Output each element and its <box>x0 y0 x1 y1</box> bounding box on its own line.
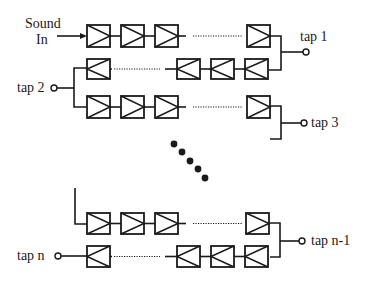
delay-stage-box <box>211 246 234 267</box>
delay-stage-box <box>121 213 144 234</box>
delay-row-row5 <box>87 246 268 267</box>
tap3-bracket-wires <box>270 106 301 139</box>
in-label: In <box>36 33 48 47</box>
delay-row-row2 <box>87 59 268 79</box>
delay-stage-box <box>121 96 144 118</box>
row4-entry-wire <box>75 188 87 224</box>
tap1-merge-wires <box>269 36 303 70</box>
delay-stage-box <box>247 25 270 47</box>
tap1-label: tap 1 <box>300 30 328 44</box>
delay-stage-box <box>245 59 268 79</box>
delay-row-row1 <box>87 25 270 47</box>
tap1-terminal-icon <box>303 49 309 55</box>
delay-stage-box <box>246 213 269 234</box>
delay-row-row3 <box>87 96 270 118</box>
delay-stage-box <box>155 96 178 118</box>
ellipsis-dot-icon <box>202 175 209 182</box>
tap2-label: tap 2 <box>17 81 45 95</box>
ellipsis-dot-icon <box>171 141 178 148</box>
delay-stage-box <box>87 213 110 234</box>
ellipsis-dot-icon <box>179 149 186 156</box>
sound-label: Sound <box>25 17 61 31</box>
delay-stage-box <box>87 59 110 79</box>
delay-stage-box <box>211 59 234 79</box>
ellipsis-dot-icon <box>195 166 202 173</box>
tapn1-label: tap n-1 <box>311 234 350 248</box>
tap3-label: tap 3 <box>311 116 339 130</box>
delay-rows <box>87 25 270 267</box>
delay-stage-box <box>247 96 270 118</box>
vertical-ellipsis <box>171 141 209 182</box>
delay-row-row4 <box>87 213 269 234</box>
tapn1-terminal-icon <box>299 238 305 244</box>
delay-stage-box <box>87 96 110 118</box>
tapn-terminal-icon <box>55 253 61 259</box>
input-arrow <box>57 33 87 39</box>
tap2-split-wires <box>57 68 87 107</box>
delay-stage-box <box>121 25 144 47</box>
tapn1-merge-wires <box>270 223 299 257</box>
delay-stage-box <box>155 213 178 234</box>
delay-stage-box <box>87 246 110 267</box>
tapn-label: tap n <box>17 249 45 263</box>
delay-stage-box <box>87 25 110 47</box>
ellipsis-dot-icon <box>187 158 194 165</box>
delay-stage-box <box>177 246 200 267</box>
delay-stage-box <box>155 25 178 47</box>
tap3-terminal-icon <box>301 120 307 126</box>
tap2-terminal-icon <box>51 85 57 91</box>
delay-stage-box <box>177 59 200 79</box>
delay-stage-box <box>245 246 268 267</box>
delay-line-diagram: Sound In tap 1 tap 2 tap 3 tap n-1 tap n <box>0 0 367 288</box>
